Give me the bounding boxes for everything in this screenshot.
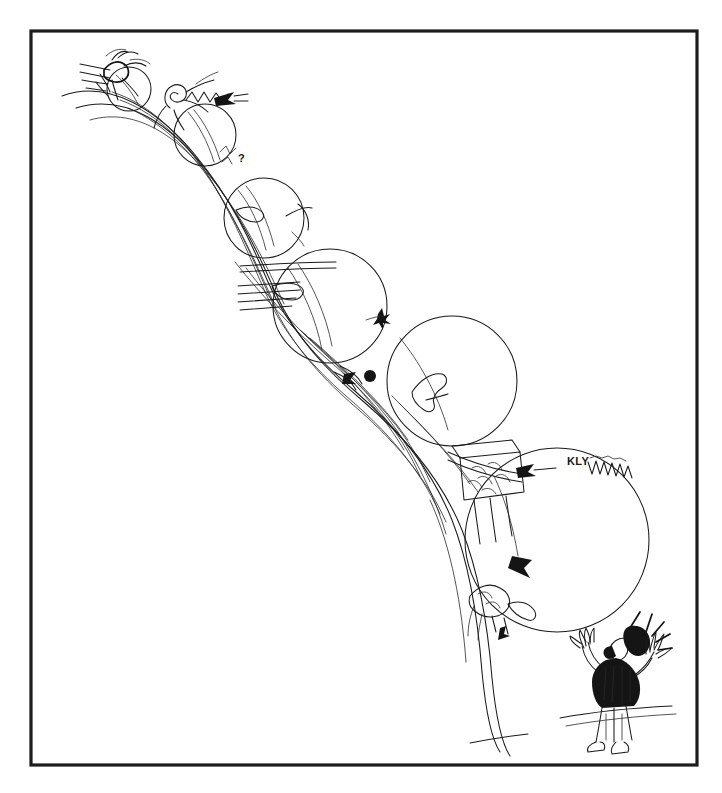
- cartoon-artboard: ?: [0, 0, 722, 793]
- caption-text: KLY: [567, 455, 589, 467]
- cartoon-canvas: ?: [0, 0, 722, 793]
- question-mark-glyph: ?: [238, 152, 245, 164]
